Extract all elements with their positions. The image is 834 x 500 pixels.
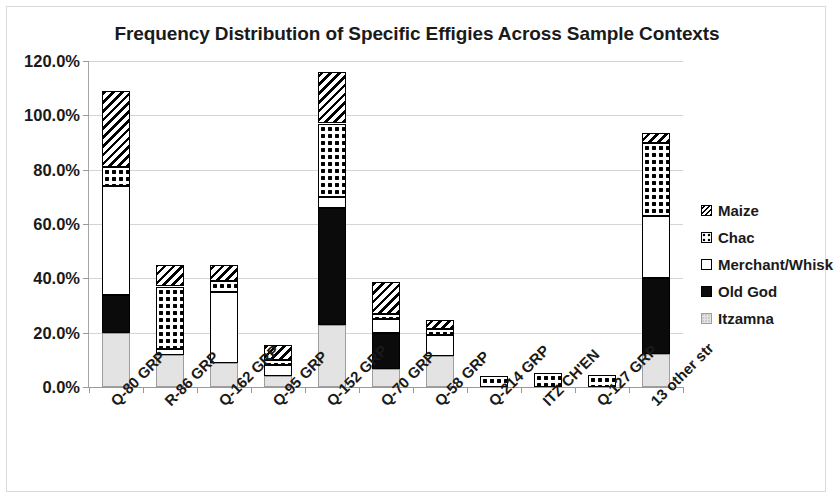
bar-segment-merchant-whisk[interactable]: [372, 319, 400, 333]
bar-column[interactable]: [426, 61, 454, 387]
bar-column[interactable]: [156, 61, 184, 387]
old-god-swatch-icon: [701, 286, 712, 297]
y-tick-mark: [83, 170, 89, 171]
bar-column[interactable]: [534, 61, 562, 387]
bar-column[interactable]: [480, 61, 508, 387]
maize-swatch-icon: [701, 205, 712, 216]
y-tick-mark: [83, 61, 89, 62]
x-tick-mark: [629, 387, 630, 393]
merchant-swatch-icon: [701, 259, 712, 270]
y-axis-tick-label: 80.0%: [33, 160, 80, 179]
y-axis-tick-label: 60.0%: [33, 215, 80, 234]
bar-column[interactable]: [210, 61, 238, 387]
bar-segment-merchant-whisk[interactable]: [102, 186, 130, 295]
y-tick-mark: [83, 224, 89, 225]
legend-item-label: Itzamna: [718, 310, 774, 327]
legend-item[interactable]: Chac: [701, 224, 823, 251]
x-tick-mark: [305, 387, 306, 393]
plot-area: 0.0%20.0%40.0%60.0%80.0%100.0%120.0%: [89, 61, 683, 387]
x-tick-mark: [143, 387, 144, 393]
x-tick-mark: [467, 387, 468, 393]
bar-segment-maize[interactable]: [210, 265, 238, 281]
y-axis-tick-label: 120.0%: [24, 52, 80, 71]
y-tick-mark: [83, 115, 89, 116]
bar-segment-chac[interactable]: [426, 329, 454, 336]
y-axis-tick-label: 0.0%: [42, 378, 80, 397]
x-tick-mark: [89, 387, 90, 393]
x-tick-mark: [413, 387, 414, 393]
bar-segment-old-god[interactable]: [102, 295, 130, 333]
legend-item[interactable]: Maize: [701, 197, 823, 224]
bar-segment-maize[interactable]: [426, 320, 454, 328]
y-tick-mark: [83, 278, 89, 279]
bar-segment-chac[interactable]: [156, 287, 184, 349]
y-axis-tick-label: 100.0%: [24, 106, 80, 125]
x-tick-mark: [197, 387, 198, 393]
bar-segment-maize[interactable]: [318, 72, 346, 124]
y-axis-tick-label: 20.0%: [33, 323, 80, 342]
legend-item[interactable]: Old God: [701, 278, 823, 305]
x-tick-mark: [251, 387, 252, 393]
bar-column[interactable]: [642, 61, 670, 387]
y-tick-mark: [83, 333, 89, 334]
bar-segment-chac[interactable]: [210, 281, 238, 292]
chart-container: Frequency Distribution of Specific Effig…: [6, 6, 826, 492]
bar-segment-merchant-whisk[interactable]: [318, 197, 346, 208]
chart-title: Frequency Distribution of Specific Effig…: [7, 23, 827, 45]
bar-column[interactable]: [264, 61, 292, 387]
bar-segment-merchant-whisk[interactable]: [642, 216, 670, 278]
bar-segment-maize[interactable]: [156, 265, 184, 287]
bar-segment-maize[interactable]: [642, 133, 670, 143]
bar-column[interactable]: [372, 61, 400, 387]
itzamna-swatch-icon: [701, 313, 712, 324]
bar-segment-maize[interactable]: [372, 282, 400, 313]
bar-column[interactable]: [102, 61, 130, 387]
legend-item-label: Old God: [718, 283, 777, 300]
x-tick-mark: [521, 387, 522, 393]
bar-segment-chac[interactable]: [318, 124, 346, 197]
x-tick-mark: [575, 387, 576, 393]
chart-legend: MaizeChacMerchant/WhiskOld GodItzamna: [701, 197, 823, 332]
legend-item[interactable]: Itzamna: [701, 305, 823, 332]
bar-segment-maize[interactable]: [102, 91, 130, 167]
bar-column[interactable]: [588, 61, 616, 387]
legend-item-label: Chac: [718, 229, 755, 246]
legend-item[interactable]: Merchant/Whisk: [701, 251, 823, 278]
bar-segment-chac[interactable]: [102, 167, 130, 186]
x-tick-mark: [683, 387, 684, 393]
bar-segment-old-god[interactable]: [318, 208, 346, 325]
legend-item-label: Merchant/Whisk: [718, 256, 833, 273]
bar-segment-chac[interactable]: [372, 314, 400, 319]
legend-item-label: Maize: [718, 202, 759, 219]
bar-segment-chac[interactable]: [642, 143, 670, 216]
bar-column[interactable]: [318, 61, 346, 387]
x-tick-mark: [359, 387, 360, 393]
y-axis-tick-label: 40.0%: [33, 269, 80, 288]
chac-swatch-icon: [701, 232, 712, 243]
